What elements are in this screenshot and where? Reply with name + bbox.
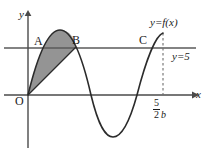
x-axis-label: x	[196, 89, 201, 100]
point-label-b: B	[72, 34, 80, 46]
fraction-denominator: 2	[153, 110, 160, 120]
y-axis-arrow	[25, 10, 32, 16]
line-equation-label: y=5	[172, 51, 190, 62]
y-axis-label: y	[19, 9, 24, 20]
x-tick-label-five-halves-b: 5 2 b	[153, 98, 166, 120]
fraction: 5 2	[153, 98, 160, 120]
point-label-c: C	[139, 34, 147, 46]
fraction-variable: b	[160, 110, 166, 120]
fraction-numerator: 5	[153, 98, 160, 108]
point-label-a: A	[34, 35, 43, 47]
math-figure: y x O A B C y=f(x) y=5 5 2 b	[0, 0, 210, 159]
figure-canvas	[0, 0, 210, 159]
curve-equation-label: y=f(x)	[150, 17, 178, 28]
origin-label: O	[15, 95, 24, 107]
